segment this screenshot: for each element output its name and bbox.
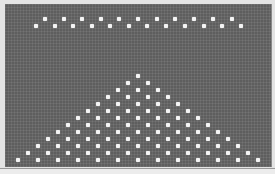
pyramid-dot <box>186 123 190 127</box>
pyramid-dot <box>156 158 160 162</box>
top-dot <box>220 24 224 28</box>
pyramid-dot <box>126 123 130 127</box>
top-dot <box>62 17 66 21</box>
pyramid-dot <box>166 137 170 141</box>
pyramid-dot <box>76 130 80 134</box>
pyramid-dot <box>186 109 190 113</box>
pyramid-dot <box>116 130 120 134</box>
pyramid-dot <box>236 144 240 148</box>
top-dot <box>53 24 57 28</box>
pyramid-dot <box>226 137 230 141</box>
pyramid-dot <box>206 123 210 127</box>
pyramid-dot <box>116 116 120 120</box>
pyramid-dot <box>186 151 190 155</box>
pyramid-dot <box>106 123 110 127</box>
top-dot <box>211 17 215 21</box>
top-dot <box>239 24 243 28</box>
pyramid-dot <box>126 95 130 99</box>
pyramid-dot <box>116 144 120 148</box>
pyramid-dot <box>16 158 20 162</box>
bottom-strip <box>0 168 275 174</box>
pyramid-dot <box>156 130 160 134</box>
pyramid-dot <box>56 144 60 148</box>
pyramid-dot <box>196 130 200 134</box>
pyramid-dot <box>166 123 170 127</box>
pyramid-dot <box>86 109 90 113</box>
pyramid-dot <box>136 130 140 134</box>
pyramid-dot <box>136 74 140 78</box>
pyramid-dot <box>76 116 80 120</box>
top-dot <box>202 24 206 28</box>
pyramid-dot <box>96 116 100 120</box>
top-dot <box>145 24 149 28</box>
pyramid-dot <box>46 137 50 141</box>
pyramid-dot <box>96 158 100 162</box>
pyramid-dot <box>96 130 100 134</box>
pyramid-dot <box>156 116 160 120</box>
pyramid-dot <box>36 144 40 148</box>
pyramid-dot <box>66 123 70 127</box>
pyramid-dot <box>116 88 120 92</box>
pyramid-dot <box>156 88 160 92</box>
pyramid-dot <box>216 144 220 148</box>
pyramid-dot <box>156 144 160 148</box>
pyramid-dot <box>196 158 200 162</box>
pyramid-dot <box>196 144 200 148</box>
top-dot <box>90 24 94 28</box>
pyramid-dot <box>236 158 240 162</box>
pyramid-dot <box>226 151 230 155</box>
pyramid-dot <box>106 109 110 113</box>
pyramid-dot <box>146 95 150 99</box>
pyramid-dot <box>86 151 90 155</box>
top-dot <box>127 24 131 28</box>
top-dot <box>43 17 47 21</box>
pyramid-dot <box>186 137 190 141</box>
pyramid-dot <box>56 158 60 162</box>
pyramid-dot <box>136 102 140 106</box>
pyramid-dot <box>136 88 140 92</box>
top-dot <box>155 17 159 21</box>
pyramid-dot <box>126 137 130 141</box>
pyramid-dot <box>206 151 210 155</box>
pyramid-dot <box>46 151 50 155</box>
pyramid-dot <box>106 95 110 99</box>
pyramid-dot <box>196 116 200 120</box>
pyramid-dot <box>176 130 180 134</box>
pyramid-dot <box>86 123 90 127</box>
pyramid-dot <box>126 151 130 155</box>
pyramid-dot <box>126 81 130 85</box>
pyramid-dot <box>176 144 180 148</box>
pyramid-dot <box>26 151 30 155</box>
pyramid-dot <box>146 123 150 127</box>
top-dot <box>183 24 187 28</box>
top-dot <box>136 17 140 21</box>
top-dot <box>99 17 103 21</box>
pyramid-dot <box>36 158 40 162</box>
top-dot <box>192 17 196 21</box>
pyramid-dot <box>76 144 80 148</box>
pyramid-dot <box>136 116 140 120</box>
pyramid-dot <box>116 102 120 106</box>
pyramid-dot <box>216 130 220 134</box>
top-dot <box>173 17 177 21</box>
top-dot <box>108 24 112 28</box>
top-dot <box>117 17 121 21</box>
pyramid-dot <box>146 151 150 155</box>
pyramid-dot <box>96 102 100 106</box>
pyramid-dot <box>206 137 210 141</box>
pyramid-dot <box>146 81 150 85</box>
pyramid-dot <box>176 102 180 106</box>
top-dot <box>164 24 168 28</box>
pyramid-dot <box>106 137 110 141</box>
pyramid-dot <box>116 158 120 162</box>
dot-grid-panel <box>5 4 272 167</box>
pyramid-dot <box>56 130 60 134</box>
pyramid-dot <box>136 158 140 162</box>
pyramid-dot <box>76 158 80 162</box>
pyramid-dot <box>66 137 70 141</box>
top-dot <box>80 17 84 21</box>
pyramid-dot <box>166 109 170 113</box>
top-dot <box>34 24 38 28</box>
top-dot <box>230 17 234 21</box>
top-dot <box>71 24 75 28</box>
